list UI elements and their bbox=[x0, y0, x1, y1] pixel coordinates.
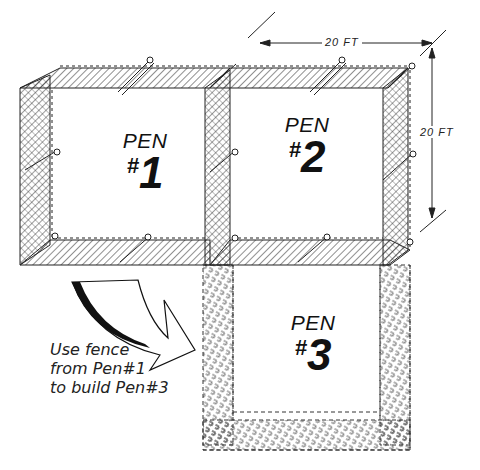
pen-1-label: PEN #1 bbox=[100, 130, 190, 195]
pen-2-label: PEN #2 bbox=[262, 114, 352, 179]
fence-diagram bbox=[0, 0, 480, 470]
pen-3-label: PEN #3 bbox=[268, 312, 358, 377]
depth-dimension: 20 FT bbox=[417, 126, 457, 138]
pen-3-number: #3 bbox=[268, 333, 358, 377]
instruction-note: Use fence from Pen#1 to build Pen#3 bbox=[50, 340, 169, 397]
width-dimension: 20 FT bbox=[322, 36, 362, 48]
pen-1-number: #1 bbox=[100, 151, 190, 195]
pen-2-number: #2 bbox=[262, 135, 352, 179]
